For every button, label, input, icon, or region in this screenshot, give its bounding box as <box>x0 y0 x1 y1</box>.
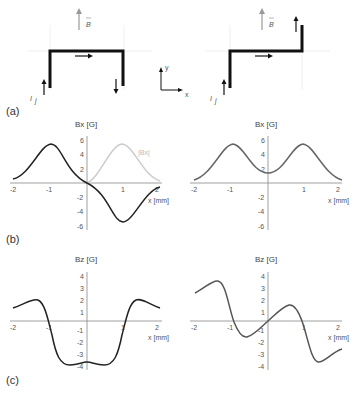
x-axis-arrow-icon <box>178 88 183 92</box>
svg-text:2: 2 <box>155 324 159 331</box>
svg-text:-4: -4 <box>258 208 264 215</box>
b-field-arrow-icon <box>76 8 82 14</box>
current-up-arrow-icon <box>294 16 299 21</box>
svg-text:x [mm]: x [mm] <box>148 197 169 205</box>
y-axis-arrow-icon <box>159 67 163 72</box>
current-arrow-icon <box>268 54 273 59</box>
svg-text:2: 2 <box>261 297 265 304</box>
svg-text:2: 2 <box>336 324 340 331</box>
svg-text:2: 2 <box>80 166 84 173</box>
svg-text:-1: -1 <box>77 327 83 334</box>
abs-bx-label: |Bx| <box>138 149 150 157</box>
panel-b: Bx [G] Bx [G] (b) -2-112 642 -2-4-6 x [m… <box>6 120 349 245</box>
bz-curve-left <box>13 300 160 365</box>
svg-text:6: 6 <box>261 137 265 144</box>
svg-text:4: 4 <box>80 151 84 158</box>
b-field-arrow-icon <box>259 8 265 14</box>
svg-text:3: 3 <box>80 285 84 292</box>
svg-text:x [mm]: x [mm] <box>148 334 169 342</box>
svg-text:j: j <box>214 97 217 105</box>
figure: B I j y x (a) B I j <box>0 0 357 396</box>
svg-text:-2: -2 <box>77 339 83 346</box>
svg-text:-1: -1 <box>227 186 233 193</box>
svg-text:j: j <box>34 97 37 105</box>
svg-text:3: 3 <box>261 285 265 292</box>
panel-a: B I j y x (a) B I j <box>6 8 330 117</box>
svg-text:-3: -3 <box>258 351 264 358</box>
panel-c: Bz [G] Bz [G] (c) -2-112 4321 -1-2-3-4 x… <box>6 255 349 386</box>
bz-curve-right <box>195 281 342 362</box>
svg-text:-2: -2 <box>10 186 16 193</box>
svg-text:-6: -6 <box>77 223 83 230</box>
bx-title: Bx [G] <box>75 120 97 129</box>
panel-label-a: (a) <box>6 105 19 117</box>
svg-text:x [mm]: x [mm] <box>328 334 349 342</box>
svg-text:4: 4 <box>261 273 265 280</box>
current-label: I <box>30 95 32 102</box>
svg-text:-4: -4 <box>258 363 264 370</box>
svg-text:-3: -3 <box>77 351 83 358</box>
current-up-arrow-icon <box>222 79 227 84</box>
svg-text:-1: -1 <box>227 324 233 331</box>
svg-text:-2: -2 <box>191 186 197 193</box>
svg-text:1: 1 <box>80 309 84 316</box>
svg-text:-2: -2 <box>77 194 83 201</box>
svg-text:-2: -2 <box>191 324 197 331</box>
svg-text:4: 4 <box>261 151 265 158</box>
svg-text:-2: -2 <box>10 324 16 331</box>
svg-text:1: 1 <box>261 309 265 316</box>
svg-text:6: 6 <box>80 137 84 144</box>
current-arrow-icon <box>88 54 93 59</box>
svg-text:x [mm]: x [mm] <box>328 197 349 205</box>
panel-label-c: (c) <box>6 374 19 386</box>
svg-text:4: 4 <box>80 273 84 280</box>
svg-text:-6: -6 <box>258 223 264 230</box>
svg-text:1: 1 <box>302 186 306 193</box>
svg-text:2: 2 <box>80 297 84 304</box>
svg-text:-2: -2 <box>258 194 264 201</box>
svg-text:-4: -4 <box>77 208 83 215</box>
svg-text:Bx [G]: Bx [G] <box>255 120 277 129</box>
current-up-arrow-icon <box>42 79 47 84</box>
svg-text:B: B <box>269 21 274 28</box>
b-field-label: B <box>86 21 91 28</box>
current-down-arrow-icon <box>114 89 119 94</box>
svg-text:x: x <box>185 91 189 98</box>
bz-title: Bz [G] <box>75 255 97 264</box>
svg-text:2: 2 <box>336 186 340 193</box>
svg-text:I: I <box>210 95 212 102</box>
svg-text:-1: -1 <box>46 186 52 193</box>
svg-text:Bz [G]: Bz [G] <box>255 255 277 264</box>
panel-label-b: (b) <box>6 233 19 245</box>
svg-text:-2: -2 <box>258 339 264 346</box>
svg-text:y: y <box>165 64 169 72</box>
svg-text:1: 1 <box>121 186 125 193</box>
